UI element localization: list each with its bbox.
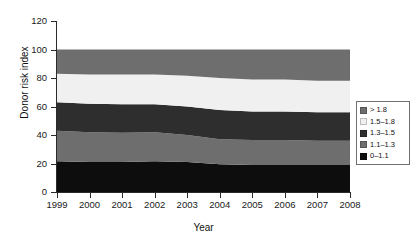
legend-swatch-icon [360, 118, 367, 125]
legend-label: > 1.8 [370, 106, 387, 114]
legend-swatch-icon [360, 107, 367, 114]
y-tick-mark [51, 50, 57, 51]
legend-label: 0–1.1 [370, 152, 389, 160]
x-tick-mark [317, 193, 318, 198]
y-tick-mark [51, 21, 57, 22]
y-tick-mark [51, 164, 57, 165]
x-tick-mark [155, 193, 156, 198]
legend: > 1.81.5–1.81.3–1.51.1–1.30–1.1 [356, 101, 410, 165]
legend-item[interactable]: > 1.8 [360, 105, 406, 115]
legend-swatch-icon [360, 141, 367, 148]
legend-swatch-icon [360, 153, 367, 160]
x-tick-label: 2008 [330, 199, 370, 210]
area-band-0 [57, 161, 350, 192]
y-tick-mark [51, 107, 57, 108]
x-axis-line [56, 192, 351, 193]
y-axis-label: Donor risk index [19, 23, 30, 143]
chart-figure: 020406080100120 199920002001200220032004… [0, 0, 418, 245]
plot-area [57, 21, 350, 192]
legend-label: 1.5–1.8 [370, 118, 395, 126]
x-tick-mark [122, 193, 123, 198]
stacked-area-plot [57, 21, 350, 192]
legend-swatch-icon [360, 130, 367, 137]
legend-item[interactable]: 1.1–1.3 [360, 140, 406, 150]
legend-item[interactable]: 1.5–1.8 [360, 117, 406, 127]
x-tick-mark [187, 193, 188, 198]
y-tick-label: 0 [0, 187, 47, 197]
x-tick-mark [350, 193, 351, 198]
legend-item[interactable]: 1.3–1.5 [360, 128, 406, 138]
x-tick-mark [220, 193, 221, 198]
y-tick-mark [51, 78, 57, 79]
x-tick-mark [57, 193, 58, 198]
x-axis-label: Year [57, 222, 350, 233]
x-tick-mark [285, 193, 286, 198]
legend-item[interactable]: 0–1.1 [360, 151, 406, 161]
legend-label: 1.1–1.3 [370, 141, 395, 149]
x-tick-mark [252, 193, 253, 198]
y-tick-mark [51, 135, 57, 136]
x-tick-mark [90, 193, 91, 198]
legend-label: 1.3–1.5 [370, 129, 395, 137]
y-tick-label: 20 [0, 159, 47, 169]
